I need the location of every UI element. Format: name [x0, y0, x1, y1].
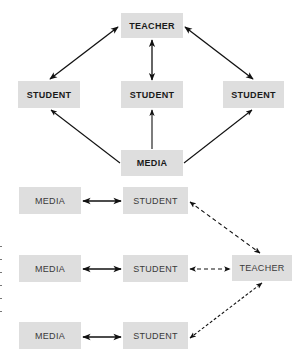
student-box-middle: STUDENT	[121, 81, 183, 108]
media-box-row3: MEDIA	[19, 322, 81, 349]
student-box-right: STUDENT	[223, 81, 284, 108]
student-label: STUDENT	[133, 196, 178, 206]
media-box-row1: MEDIA	[19, 187, 81, 214]
teacher-box-top: TEACHER	[121, 13, 183, 38]
arrow-media-student-right	[184, 110, 252, 163]
media-label: MEDIA	[35, 264, 65, 274]
teacher-box-bottom: TEACHER	[232, 255, 292, 281]
media-box-top: MEDIA	[121, 150, 183, 176]
student-label: STUDENT	[133, 331, 178, 341]
arrow-student-teacher-row3	[190, 283, 262, 338]
arrow-media-student-left	[51, 110, 120, 163]
media-label: MEDIA	[35, 196, 65, 206]
student-label: STUDENT	[130, 90, 175, 100]
arrow-layer	[0, 0, 303, 361]
student-label: STUDENT	[27, 90, 72, 100]
media-label: MEDIA	[35, 331, 65, 341]
arrow-teacher-student-left	[50, 27, 118, 79]
student-label: STUDENT	[133, 264, 178, 274]
media-label: MEDIA	[137, 158, 168, 168]
student-box-row2: STUDENT	[123, 255, 188, 282]
teacher-label: TEACHER	[239, 263, 284, 273]
page-edge-marks	[0, 246, 3, 326]
student-box-row1: STUDENT	[123, 187, 188, 214]
teacher-label: TEACHER	[129, 21, 175, 31]
student-label: STUDENT	[231, 90, 276, 100]
arrow-teacher-student-right	[185, 27, 253, 79]
media-box-row2: MEDIA	[19, 255, 81, 282]
student-box-row3: STUDENT	[123, 322, 188, 349]
arrow-student-teacher-row1	[190, 202, 260, 253]
student-box-left: STUDENT	[18, 81, 80, 108]
